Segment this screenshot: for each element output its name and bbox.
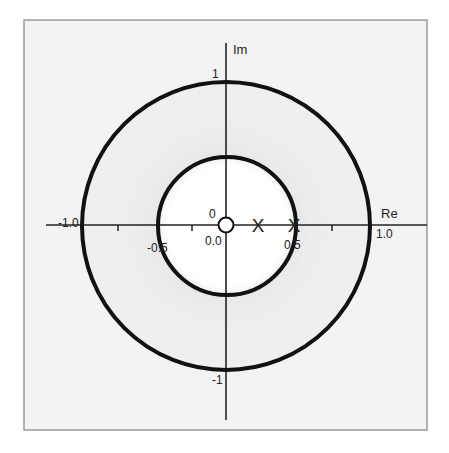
tick-label-real-minus-1: -1.0 [58,216,79,230]
zero-marker-label: 0 [209,207,216,221]
pole-zero-plot: X X Im Re 1 -1 -1.0 1.0 -0.5 0.5 0.0 0 [0,0,449,453]
diagram-canvas: X X Im Re 1 -1 -1.0 1.0 -0.5 0.5 0.0 0 [0,0,449,453]
real-axis-label: Re [381,206,398,221]
zero-marker-icon [219,218,234,233]
tick-label-real-minus-0.5: -0.5 [147,241,168,255]
tick-label-imag-1: 1 [212,67,219,81]
pole-marker-0.25: X [252,215,265,236]
pole-marker-0.5: X [288,215,301,236]
tick-label-imag-minus-1: -1 [212,373,223,387]
tick-label-real-0: 0.0 [205,234,222,248]
imaginary-axis-label: Im [233,42,247,57]
tick-label-real-0.5: 0.5 [284,238,301,252]
tick-label-real-1: 1.0 [376,227,393,241]
